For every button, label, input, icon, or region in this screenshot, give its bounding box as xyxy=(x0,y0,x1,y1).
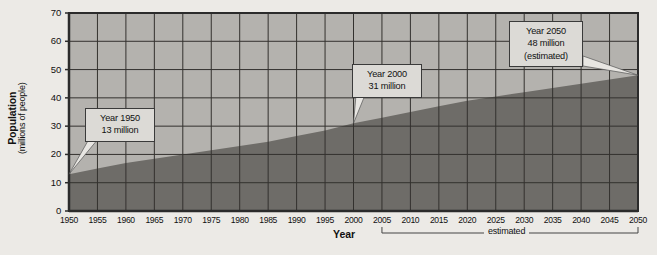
callout-2000-line-2: 31 million xyxy=(359,80,415,92)
callout-1950-line-2: 13 million xyxy=(92,124,148,136)
population-area-chart: Population (millions of people) 01020304… xyxy=(0,0,657,255)
callout-2050-line-1: Year 2050 xyxy=(516,25,576,37)
callout-2000: Year 200031 million xyxy=(352,64,422,98)
callout-2050: Year 205048 million(estimated) xyxy=(509,21,583,67)
callout-1950-line-1: Year 1950 xyxy=(92,112,148,124)
callout-2000-line-1: Year 2000 xyxy=(359,68,415,80)
callout-2050-line-2: 48 million xyxy=(516,37,576,49)
callout-1950: Year 195013 million xyxy=(85,108,155,142)
x-axis-title: Year xyxy=(333,228,355,240)
callout-2050-line-3: (estimated) xyxy=(516,50,576,62)
estimated-bracket-label: estimated xyxy=(484,226,529,236)
